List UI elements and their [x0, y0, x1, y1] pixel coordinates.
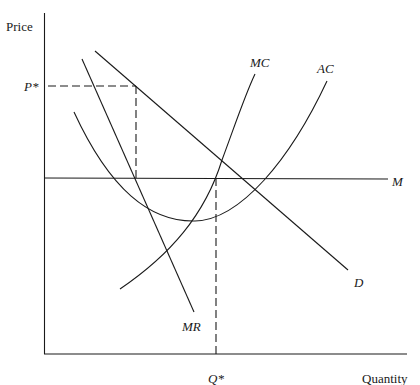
q-star-label: Q* — [208, 372, 224, 385]
d-label: D — [354, 276, 363, 289]
m-label: M — [392, 175, 403, 188]
p-star-label: P* — [24, 80, 38, 93]
mr-label: MR — [182, 320, 201, 333]
ac-label: AC — [317, 62, 334, 75]
mc-label: MC — [250, 56, 270, 69]
mr-line — [82, 59, 194, 312]
y-axis-label: Price — [6, 20, 33, 33]
chart: Price P* Q* Quantity MC AC M D MR — [0, 0, 420, 385]
ac-curve — [74, 81, 327, 221]
x-axis-label: Quantity — [362, 372, 408, 385]
mc-curve — [120, 74, 255, 289]
chart-plot — [0, 0, 420, 385]
